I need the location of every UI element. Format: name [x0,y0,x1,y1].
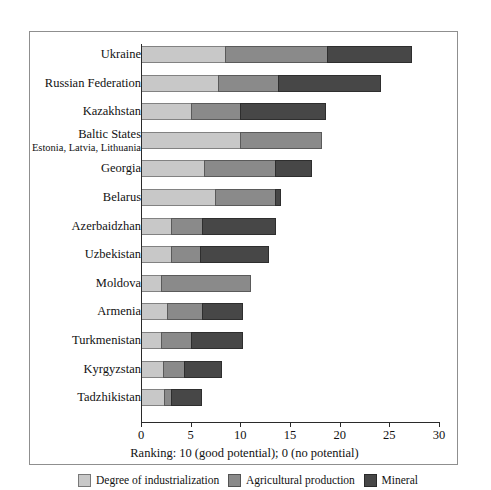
bar-segment [171,218,202,235]
bar-segment [171,389,202,406]
stacked-bar [141,361,222,378]
bar-row: Tadzhikistan [30,389,459,415]
x-axis-tick-label: 20 [320,428,360,443]
bar-segment [327,46,412,63]
bar-segment [275,189,281,206]
x-axis-title: Ranking: 10 (good potential); 0 (no pote… [30,446,459,461]
bar-segment [161,332,191,349]
bar-segment [141,75,218,92]
bar-segment [240,132,321,149]
legend-item-industrialization: Degree of industrialization [78,474,219,487]
bar-segment [225,46,326,63]
legend-label-mineral: Mineral [382,474,418,486]
stacked-bar [141,75,381,92]
stacked-bar [141,303,243,320]
x-axis-tick [439,422,440,427]
stacked-bar [141,189,281,206]
legend-swatch-mineral [364,474,377,487]
legend-label-industrialization: Degree of industrialization [96,474,219,486]
bar-segment [141,275,161,292]
x-axis-tick-label: 15 [270,428,310,443]
legend-swatch-agriculture [228,474,241,487]
bar-row: Turkmenistan [30,332,459,358]
bar-row-label: Moldova [0,277,141,290]
x-axis-tick-label: 10 [220,428,260,443]
bar-segment [141,103,191,120]
x-axis-tick [191,422,192,427]
bar-row-label: Azerbaidzhan [0,220,141,233]
y-axis-line [141,44,142,422]
bar-row: Kazakhstan [30,103,459,129]
bar-segment [141,218,171,235]
bar-segment [163,361,184,378]
x-axis-tick [240,422,241,427]
bar-segment [141,389,164,406]
stacked-bar [141,389,202,406]
bar-segment [141,332,161,349]
bar-segment [191,332,244,349]
bar-segment [184,361,223,378]
legend-item-agriculture: Agricultural production [228,474,355,487]
bar-segment [141,303,167,320]
bar-segment [278,75,381,92]
bar-row: Armenia [30,303,459,329]
bar-segment [141,132,240,149]
chart-plot-area: UkraineRussian FederationKazakhstanBalti… [30,32,459,466]
legend-label-agriculture: Agricultural production [246,474,355,486]
bar-segment [141,160,204,177]
bar-row: Uzbekistan [30,246,459,272]
legend-item-mineral: Mineral [364,474,418,487]
bar-segment [200,246,270,263]
stacked-bar [141,160,312,177]
x-axis-tick [290,422,291,427]
stacked-bar [141,218,276,235]
stacked-bar [141,275,251,292]
bar-row: Russian Federation [30,75,459,101]
bar-row: Georgia [30,160,459,186]
bar-row-label: Belarus [0,191,141,204]
legend-swatch-industrialization [78,474,91,487]
bar-segment [204,160,276,177]
x-axis-tick-label: 5 [171,428,211,443]
bar-row-label: Turkmenistan [0,334,141,347]
bar-row: Baltic StatesEstonia, Latvia, Lithuania [30,132,459,158]
x-axis-tick-label: 25 [369,428,409,443]
bar-row: Ukraine [30,46,459,72]
bar-row-label: Ukraine [0,48,141,61]
stacked-bar [141,332,243,349]
bar-segment [202,218,277,235]
chart-frame: UkraineRussian FederationKazakhstanBalti… [29,31,458,465]
bar-row: Moldova [30,275,459,301]
chart-legend: Degree of industrialization Agricultural… [78,470,418,490]
bar-segment [215,189,276,206]
bar-row-label: Kazakhstan [0,105,141,118]
bar-segment [191,103,241,120]
bar-row-label: Baltic StatesEstonia, Latvia, Lithuania [0,128,141,154]
bar-segment [141,361,163,378]
bar-row: Azerbaidzhan [30,218,459,244]
bar-row-label: Uzbekistan [0,248,141,261]
bar-row-label: Armenia [0,305,141,318]
bar-row-label: Tadzhikistan [0,391,141,404]
bar-segment [161,275,251,292]
x-axis-tick [340,422,341,427]
x-axis-tick-label: 30 [419,428,459,443]
bar-segment [240,103,325,120]
bar-row-label: Kyrgyzstan [0,363,141,376]
bar-segment [171,246,200,263]
bar-row-label: Russian Federation [0,77,141,90]
bar-segment [164,389,171,406]
stacked-bar [141,103,326,120]
bar-row: Belarus [30,189,459,215]
bar-segment [202,303,244,320]
stacked-bar [141,46,412,63]
bar-segment [275,160,312,177]
x-axis-tick-label: 0 [121,428,161,443]
stacked-bar [141,132,322,149]
bar-segment [141,246,171,263]
bar-segment [141,46,225,63]
x-axis-tick [389,422,390,427]
bar-row: Kyrgyzstan [30,361,459,387]
bar-row-label: Georgia [0,162,141,175]
x-axis-tick [141,422,142,427]
